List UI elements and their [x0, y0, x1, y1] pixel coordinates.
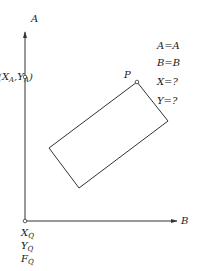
point-p-label: P [123, 69, 131, 80]
vertical-axis-label: A [30, 13, 38, 24]
equation-y: Y=? [157, 95, 178, 106]
equation-b: B=B [156, 57, 180, 68]
origin-label-x: XQ [20, 227, 34, 240]
origin-label-y: YQ [21, 240, 34, 253]
point-p-marker [135, 80, 139, 84]
horizontal-axis-label: B [180, 215, 188, 226]
equation-a: A=A [156, 40, 180, 51]
point-a-label: (XA,YA) [0, 71, 33, 84]
rotated-rectangle [49, 82, 168, 188]
equation-x: X=? [156, 76, 178, 87]
diagram-canvas: A B (XA,YA) P XQ YQ FQ A=A B=B X=? Y=? [0, 0, 197, 271]
origin-label-f: FQ [20, 253, 34, 266]
origin-marker [23, 219, 27, 223]
